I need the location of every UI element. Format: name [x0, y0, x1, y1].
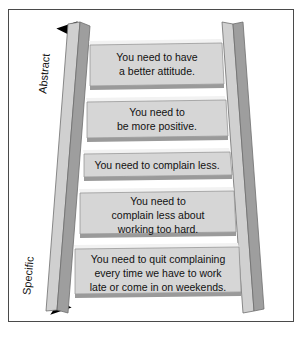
rung-1-line-1: You need to have — [116, 51, 198, 63]
rung-3-line-1: You need to complain less. — [94, 159, 219, 171]
rung-5-line-3: late or come in on weekends. — [90, 281, 227, 293]
abstraction-ladder-figure: Abstract Specific You need to have a bet… — [0, 0, 304, 338]
axis-label-abstract: Abstract — [36, 53, 51, 94]
rung-2-line-1: You need to — [129, 106, 185, 118]
ladder-rung-5: You need to quit complaining every time … — [74, 243, 241, 298]
ladder-rung-3: You need to complain less. — [83, 148, 232, 181]
rung-5-line-1: You need to quit complaining — [91, 253, 226, 265]
ladder-rung-2: You need to be more positive. — [86, 96, 228, 142]
ladder-rung-1: You need to have a better attitude. — [89, 39, 224, 90]
rung-4-line-3: working too hard. — [117, 223, 199, 235]
rung-1-line-2: a better attitude. — [119, 65, 195, 77]
ladder-rung-4: You need to complain less about working … — [79, 187, 236, 238]
rung-5-line-2: every time we have to work — [94, 267, 222, 279]
ladder-illustration: Abstract Specific You need to have a bet… — [0, 0, 304, 338]
rung-4-line-2: complain less about — [112, 209, 205, 221]
rung-2-line-2: be more positive. — [117, 120, 197, 132]
rung-4-line-1: You need to — [130, 195, 186, 207]
axis-label-specific: Specific — [20, 255, 35, 295]
